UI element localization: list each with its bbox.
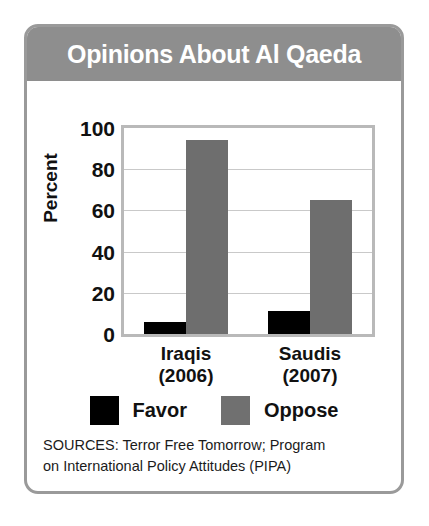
plot-area	[121, 125, 375, 337]
sources-note: SOURCES: Terror Free Tomorrow; Program o…	[43, 435, 391, 477]
chart-legend: FavorOppose	[27, 387, 401, 433]
bar-oppose-iraqis	[186, 140, 228, 334]
y-tick-label: 80	[53, 159, 115, 180]
y-tick-label: 100	[53, 118, 115, 139]
page-title: Opinions About Al Qaeda	[67, 40, 361, 69]
gridline	[124, 169, 372, 170]
x-axis-label-saudis: Saudis(2007)	[248, 343, 372, 387]
category-name: Iraqis	[161, 343, 212, 364]
x-axis-label-iraqis: Iraqis(2006)	[124, 343, 248, 387]
category-name: Saudis	[279, 343, 341, 364]
bar-favor-saudis	[268, 311, 310, 334]
category-year: (2007)	[248, 365, 372, 387]
y-tick-label: 40	[53, 241, 115, 262]
category-year: (2006)	[124, 365, 248, 387]
y-axis-ticks: 100806040200	[53, 125, 115, 337]
legend-label: Oppose	[264, 399, 338, 422]
legend-swatch-oppose-icon	[221, 396, 250, 425]
y-tick-label: 60	[53, 200, 115, 221]
plot-inner	[124, 128, 372, 334]
bar-oppose-saudis	[310, 200, 352, 334]
bar-favor-iraqis	[144, 322, 186, 334]
legend-swatch-favor-icon	[90, 396, 119, 425]
chart-card: Opinions About Al Qaeda Percent 10080604…	[24, 24, 404, 494]
y-tick-label: 20	[53, 282, 115, 303]
legend-label: Favor	[133, 399, 187, 422]
legend-entry-favor: Favor	[90, 396, 187, 425]
legend-entry-oppose: Oppose	[221, 396, 338, 425]
y-tick-label: 0	[53, 324, 115, 345]
sources-line-1: SOURCES: Terror Free Tomorrow; Program	[43, 435, 391, 456]
chart-plot-region: Percent 100806040200 Iraqis(2006)Saudis(…	[27, 81, 401, 381]
sources-line-2: on International Policy Attitudes (PIPA)	[43, 456, 391, 477]
chart-header: Opinions About Al Qaeda	[27, 27, 401, 81]
